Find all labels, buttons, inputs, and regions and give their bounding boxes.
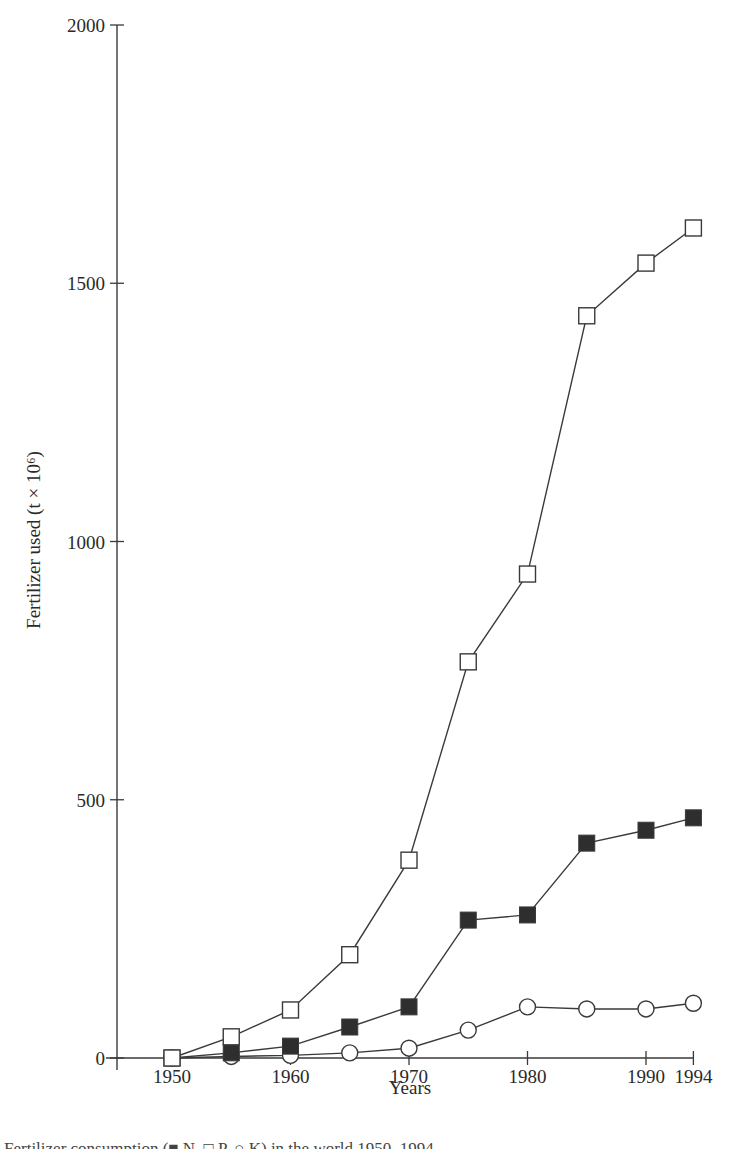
filled-square-marker: [579, 835, 595, 851]
filled-square-marker: [638, 822, 654, 838]
filled-square-line: [172, 818, 693, 1058]
open-square-line: [172, 228, 693, 1058]
open-square-marker: [638, 255, 654, 271]
open-square-marker: [223, 1029, 239, 1045]
y-tick-label: 500: [77, 790, 106, 811]
x-tick-label: 1950: [153, 1066, 191, 1087]
x-tick-label: 1980: [509, 1066, 547, 1087]
filled-square-marker: [685, 810, 701, 826]
open-square-marker: [342, 947, 358, 963]
y-tick-label: 0: [96, 1048, 106, 1069]
open-square-marker: [401, 852, 417, 868]
x-tick-label: 1960: [272, 1066, 310, 1087]
open-square-marker: [520, 566, 536, 582]
filled-square-marker: [401, 999, 417, 1015]
filled-square-marker: [520, 907, 536, 923]
y-axis-title: Fertilizer used (t × 10⁶): [23, 451, 45, 629]
open-square-marker: [283, 1002, 299, 1018]
open-square-marker: [685, 220, 701, 236]
figure-caption: Fertilizer consumption (■ N, □ P, ○ K) i…: [4, 1136, 749, 1149]
y-tick-label: 2000: [67, 15, 105, 36]
open-circle-marker: [579, 1001, 595, 1017]
y-tick-label: 1500: [67, 273, 105, 294]
open-circle-marker: [460, 1022, 476, 1038]
data-series: [164, 220, 701, 1066]
open-circle-marker: [520, 999, 536, 1015]
x-tick-label: 1990: [627, 1066, 665, 1087]
open-circle-marker: [401, 1040, 417, 1056]
filled-square-marker: [460, 912, 476, 928]
filled-square-marker: [342, 1019, 358, 1035]
open-square-marker: [460, 654, 476, 670]
open-circle-marker: [685, 995, 701, 1011]
filled-square-marker: [283, 1038, 299, 1054]
x-axis-title: Years: [389, 1077, 431, 1098]
filled-square-marker: [223, 1045, 239, 1061]
axes: 0500100015002000195019601970198019901994: [67, 15, 713, 1087]
open-square-marker: [164, 1050, 180, 1066]
open-circle-marker: [638, 1001, 654, 1017]
x-tick-label: 1994: [674, 1066, 713, 1087]
open-square-marker: [579, 308, 595, 324]
open-circle-line: [172, 1003, 693, 1058]
open-circle-marker: [342, 1045, 358, 1061]
line-chart: 0500100015002000195019601970198019901994…: [0, 0, 753, 1149]
y-tick-label: 1000: [67, 532, 105, 553]
